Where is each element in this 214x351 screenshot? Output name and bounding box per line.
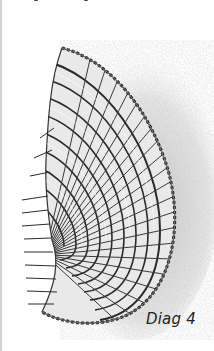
crochet-swatch-illustration xyxy=(0,0,214,351)
figure-caption: Diag 4 xyxy=(146,310,196,328)
